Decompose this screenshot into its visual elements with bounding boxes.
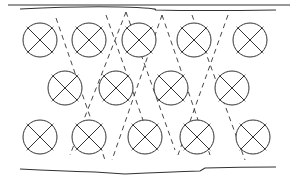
diagram-canvas (0, 0, 290, 185)
circle-element (154, 71, 188, 105)
circular-elements (23, 23, 270, 154)
circle-element (122, 23, 156, 57)
circle-element (128, 120, 162, 154)
circle-element (215, 71, 249, 105)
bottom-boundary-line (20, 167, 276, 174)
circle-element (23, 23, 57, 57)
circle-element (180, 120, 214, 154)
circle-element (23, 120, 57, 154)
circle-element (236, 120, 270, 154)
circle-element (72, 23, 106, 57)
circle-element (72, 120, 106, 154)
circle-element (99, 71, 133, 105)
circle-element (48, 71, 82, 105)
circle-element (177, 23, 211, 57)
top-boundary-line (8, 5, 290, 11)
circle-element (233, 23, 267, 57)
